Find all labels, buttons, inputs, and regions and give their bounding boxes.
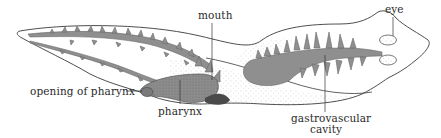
label-cavity: cavity (291, 124, 361, 135)
label-eye: eye (385, 4, 404, 15)
planarian-diagram: mouth eye opening of pharynx pharynx gas… (0, 0, 441, 138)
label-opening-of-pharynx: opening of pharynx (30, 86, 135, 97)
pharynx-opening-shape (141, 88, 153, 97)
eye-upper-shape (380, 35, 397, 45)
label-pharynx: pharynx (158, 106, 202, 117)
eye-lower-shape (380, 55, 397, 65)
label-mouth: mouth (198, 10, 233, 21)
